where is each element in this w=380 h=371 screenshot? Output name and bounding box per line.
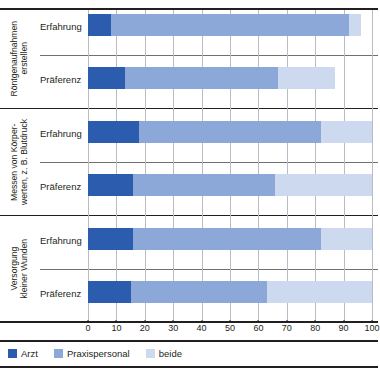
gridline-0 <box>88 10 89 321</box>
x-tick-label-70: 70 <box>282 323 292 333</box>
bar-row-2 <box>88 67 335 89</box>
bar-segment-praxispersonal <box>131 281 267 303</box>
legend-swatch-icon <box>54 349 63 358</box>
chart-legend: ArztPraxispersonalbeide <box>8 345 192 361</box>
bar-segment-praxispersonal <box>133 174 275 196</box>
bar-segment-arzt <box>88 281 131 303</box>
x-tick-label-100: 100 <box>364 323 379 333</box>
legend-label: Arzt <box>21 348 38 359</box>
bar-segment-praxispersonal <box>125 67 278 89</box>
gridline-60 <box>258 10 259 321</box>
chart-bottom-rule <box>0 366 378 368</box>
x-tick-label-90: 90 <box>339 323 349 333</box>
gridline-20 <box>145 10 146 321</box>
x-tick-label-60: 60 <box>253 323 263 333</box>
group-label-koerperwerte-text: Messen von Körper- werten, z. B. Blutdru… <box>10 119 29 205</box>
bar-segment-arzt <box>88 14 111 36</box>
row-label-g2-erfahrung: Erfahrung <box>40 128 86 139</box>
bar-row-6 <box>88 281 372 303</box>
bar-segment-beide <box>267 281 372 303</box>
gridline-90 <box>344 10 345 321</box>
bar-segment-arzt <box>88 228 133 250</box>
bar-segment-beide <box>321 121 372 143</box>
stacked-bar-chart: Röntgenaufnahmen erstellen Messen von Kö… <box>0 0 380 371</box>
x-axis-tick-labels: 0102030405060708090100 <box>88 323 372 337</box>
legend-swatch-icon <box>146 349 155 358</box>
bar-segment-beide <box>278 67 335 89</box>
group-label-roentgen-text: Röntgenaufnahmen erstellen <box>10 21 29 97</box>
gridline-10 <box>116 10 117 321</box>
row-label-g2-praeferenz: Präferenz <box>40 181 86 192</box>
gridline-80 <box>315 10 316 321</box>
x-tick-label-10: 10 <box>111 323 121 333</box>
bar-segment-praxispersonal <box>111 14 350 36</box>
x-tick-label-0: 0 <box>85 323 90 333</box>
row-label-g1-praeferenz: Präferenz <box>40 74 86 85</box>
legend-label: Praxispersonal <box>67 348 130 359</box>
bar-row-5 <box>88 228 372 250</box>
bar-segment-praxispersonal <box>133 228 320 250</box>
plot-right-border <box>372 10 373 321</box>
gridline-70 <box>287 10 288 321</box>
row-label-g3-praeferenz: Präferenz <box>40 288 86 299</box>
group-label-roentgen: Röntgenaufnahmen erstellen <box>0 10 40 108</box>
bar-segment-beide <box>275 174 372 196</box>
x-tick-label-80: 80 <box>310 323 320 333</box>
gridline-50 <box>230 10 231 321</box>
legend-swatch-icon <box>8 349 17 358</box>
plot-area <box>88 10 372 321</box>
legend-label: beide <box>159 348 182 359</box>
bar-segment-beide <box>321 228 372 250</box>
gridline-40 <box>202 10 203 321</box>
legend-item-beide[interactable]: beide <box>146 348 182 359</box>
gridline-30 <box>173 10 174 321</box>
bar-row-4 <box>88 174 372 196</box>
bar-segment-beide <box>349 14 360 36</box>
x-tick-label-40: 40 <box>197 323 207 333</box>
x-tick-label-50: 50 <box>225 323 235 333</box>
x-tick-label-20: 20 <box>140 323 150 333</box>
legend-item-arzt[interactable]: Arzt <box>8 348 38 359</box>
row-label-g3-erfahrung: Erfahrung <box>40 235 86 246</box>
bar-segment-praxispersonal <box>139 121 321 143</box>
legend-top-rule <box>0 340 378 342</box>
group-label-wunden-text: Versorgung kleiner Wunden <box>10 239 29 299</box>
group-label-koerperwerte: Messen von Körper- werten, z. B. Blutdru… <box>0 109 40 215</box>
legend-item-praxispersonal[interactable]: Praxispersonal <box>54 348 130 359</box>
bar-segment-arzt <box>88 121 139 143</box>
x-tick-label-30: 30 <box>168 323 178 333</box>
bar-row-3 <box>88 121 372 143</box>
bar-segment-arzt <box>88 174 133 196</box>
group-label-wunden: Versorgung kleiner Wunden <box>0 216 40 321</box>
row-label-g1-erfahrung: Erfahrung <box>40 21 86 32</box>
bar-segment-arzt <box>88 67 125 89</box>
bar-row-1 <box>88 14 361 36</box>
